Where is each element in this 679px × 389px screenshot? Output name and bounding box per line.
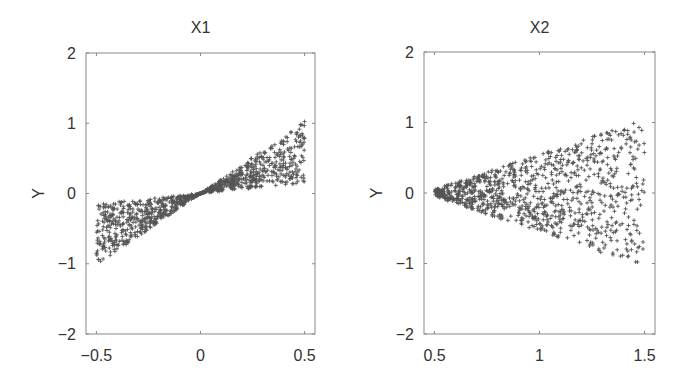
y-tick-label: 1	[405, 114, 414, 131]
y-tick-label: −1	[396, 255, 414, 272]
scatter-panel-x2: X2Y210−1−20.511.5	[340, 0, 679, 389]
scatter-plot-x1: X1Y210−1−2−0.500.5	[0, 0, 340, 389]
x-tick-label: 0.5	[293, 347, 315, 364]
y-axis-label: Y	[368, 187, 385, 198]
scatter-panel-x1: X1Y210−1−2−0.500.5	[0, 0, 340, 389]
y-tick-label: −1	[58, 255, 76, 272]
chart-title: X1	[191, 19, 211, 36]
x-tick-label: 0	[196, 347, 205, 364]
x-tick-label: 1	[535, 347, 544, 364]
y-tick-label: 2	[67, 45, 76, 62]
y-tick-label: 0	[405, 185, 414, 202]
y-tick-label: −2	[396, 326, 414, 343]
scatter-points	[95, 120, 307, 264]
y-tick-label: 1	[67, 115, 76, 132]
chart-title: X2	[530, 19, 550, 36]
scatter-points	[433, 121, 646, 264]
x-tick-label: 1.5	[633, 347, 655, 364]
x-tick-label: 0.5	[423, 347, 445, 364]
y-axis-label: Y	[30, 188, 47, 199]
y-tick-label: −2	[58, 326, 76, 343]
x-tick-label: −0.5	[81, 347, 113, 364]
y-tick-label: 0	[67, 185, 76, 202]
y-tick-label: 2	[405, 44, 414, 61]
scatter-plot-x2: X2Y210−1−20.511.5	[340, 0, 679, 389]
